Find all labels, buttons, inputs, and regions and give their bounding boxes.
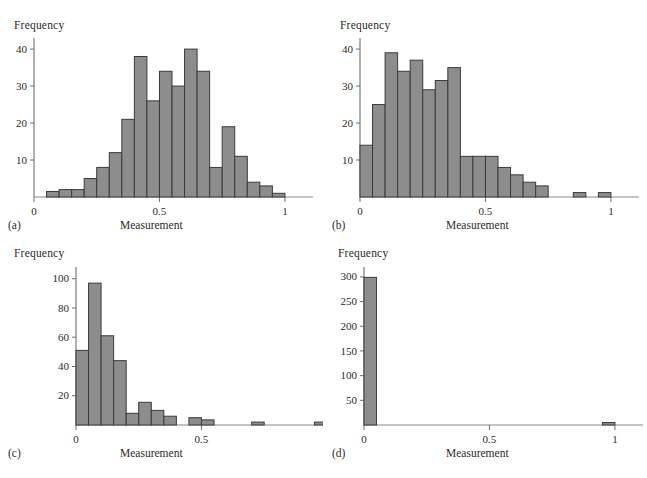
histogram-svg-d: 5010015020025030000.51 [324,239,647,478]
svg-text:30: 30 [342,80,354,92]
svg-text:20: 20 [342,117,354,129]
plot-area-c: 2040608010000.51 [0,239,323,478]
svg-text:0.5: 0.5 [483,433,497,445]
svg-text:50: 50 [346,394,358,406]
svg-text:60: 60 [58,331,70,343]
svg-text:20: 20 [58,389,70,401]
plot-area-a: 1020304000.51 [0,0,323,239]
histogram-svg-a: 1020304000.51 [0,0,323,239]
x-axis-label: Measurement [446,219,509,231]
panel-b: Frequency 1020304000.51 Measurement (b) [324,0,647,239]
svg-text:0.5: 0.5 [195,433,209,445]
histogram-svg-b: 1020304000.51 [324,0,647,239]
svg-text:150: 150 [341,345,358,357]
histogram-svg-c: 2040608010000.51 [0,239,323,478]
svg-text:40: 40 [16,43,28,55]
plot-area-b: 1020304000.51 [324,0,647,239]
svg-text:200: 200 [341,320,358,332]
svg-text:0: 0 [31,205,37,217]
svg-text:250: 250 [341,295,358,307]
svg-text:40: 40 [58,360,70,372]
svg-text:100: 100 [53,272,70,284]
panel-caption: (d) [332,447,345,459]
svg-text:1: 1 [612,433,618,445]
panel-c: Frequency 2040608010000.51 Measurement (… [0,239,323,478]
svg-text:10: 10 [342,154,354,166]
x-axis-label: Measurement [446,447,509,459]
svg-text:0: 0 [361,433,367,445]
svg-text:0: 0 [73,433,79,445]
panel-d: Frequency 5010015020025030000.51 Measure… [324,239,647,478]
svg-text:1: 1 [282,205,288,217]
x-axis-label: Measurement [120,219,183,231]
panel-caption: (c) [8,447,21,459]
svg-text:300: 300 [341,270,358,282]
svg-text:40: 40 [342,43,354,55]
histogram-figure: Frequency 1020304000.51 Measurement (a) … [0,0,647,478]
plot-area-d: 5010015020025030000.51 [324,239,647,478]
svg-text:0.5: 0.5 [153,205,167,217]
svg-text:100: 100 [341,369,358,381]
svg-text:20: 20 [16,117,28,129]
x-axis-label: Measurement [120,447,183,459]
svg-text:30: 30 [16,80,28,92]
panel-a: Frequency 1020304000.51 Measurement (a) [0,0,323,239]
svg-text:10: 10 [16,154,28,166]
svg-text:1: 1 [608,205,614,217]
svg-text:80: 80 [58,302,70,314]
svg-text:0.5: 0.5 [479,205,493,217]
panel-caption: (b) [332,219,345,231]
svg-text:0: 0 [357,205,363,217]
panel-caption: (a) [8,219,21,231]
